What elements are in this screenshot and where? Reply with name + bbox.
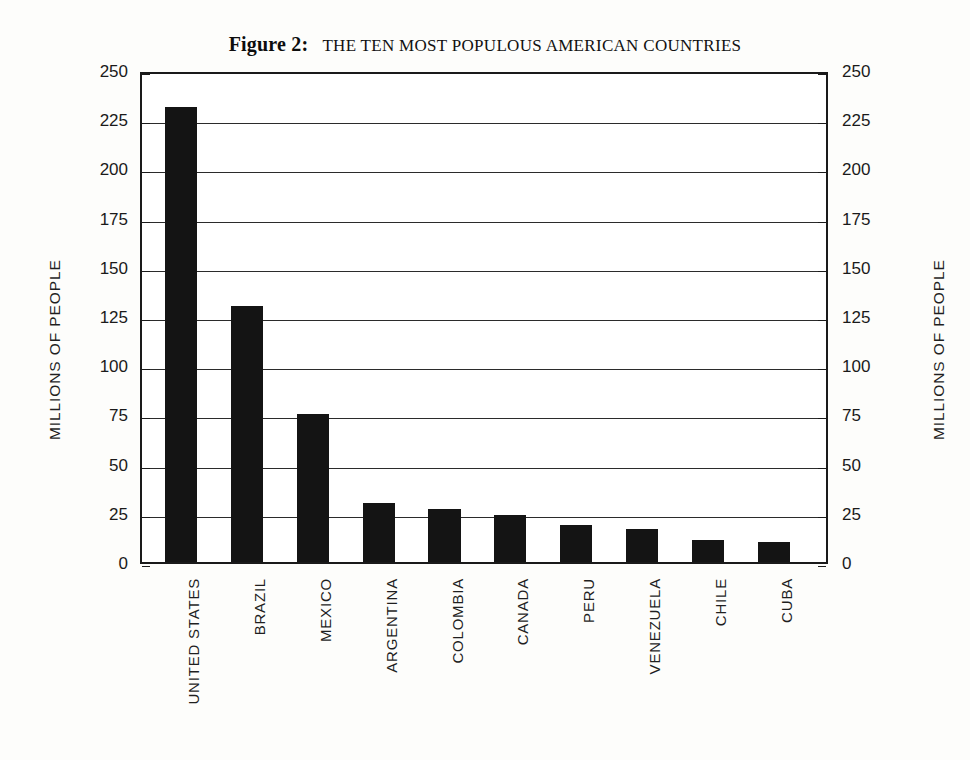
axis-tick-right	[818, 369, 826, 370]
category-label: PERU	[580, 578, 597, 623]
ytick-label-left: 0	[68, 555, 128, 572]
axis-tick-left	[142, 222, 150, 223]
axis-tick-right	[818, 517, 826, 518]
plot-area	[140, 72, 828, 564]
ytick-label-left: 225	[68, 112, 128, 129]
axis-tick-left	[142, 418, 150, 419]
category-label: BRAZIL	[251, 578, 268, 635]
ytick-label-left: 100	[68, 358, 128, 375]
category-label: CANADA	[514, 578, 531, 645]
ytick-label-right: 100	[842, 358, 902, 375]
ytick-label-right: 125	[842, 309, 902, 326]
ytick-label-left: 200	[68, 161, 128, 178]
axis-tick-right	[818, 320, 826, 321]
ytick-label-right: 50	[842, 457, 902, 474]
ytick-label-right: 75	[842, 407, 902, 424]
ytick-label-left: 175	[68, 211, 128, 228]
axis-tick-right	[818, 74, 826, 75]
ytick-label-right: 225	[842, 112, 902, 129]
left-axis-title: MILLIONS OF PEOPLE	[46, 259, 64, 440]
ytick-label-left: 150	[68, 260, 128, 277]
axis-tick-right	[818, 222, 826, 223]
axis-tick-right	[818, 123, 826, 124]
right-axis-title: MILLIONS OF PEOPLE	[930, 259, 948, 440]
ytick-label-right: 25	[842, 506, 902, 523]
figure-container: Figure 2:THE TEN MOST POPULOUS AMERICAN …	[0, 0, 970, 760]
axis-tick-right	[818, 271, 826, 272]
category-label: MEXICO	[317, 578, 334, 642]
ytick-label-left: 50	[68, 457, 128, 474]
axis-tick-right	[818, 468, 826, 469]
category-label: ARGENTINA	[383, 578, 400, 673]
ytick-label-right: 175	[842, 211, 902, 228]
ytick-label-right: 250	[842, 63, 902, 80]
category-label: CUBA	[778, 578, 795, 623]
category-label: UNITED STATES	[185, 578, 202, 705]
axis-tick-left	[142, 271, 150, 272]
axis-tick-left	[142, 123, 150, 124]
category-label: COLOMBIA	[449, 578, 466, 664]
axis-tick-left	[142, 172, 150, 173]
axis-tick-right	[818, 172, 826, 173]
axis-tick-right	[818, 566, 826, 567]
axis-tick-left	[142, 566, 150, 567]
axis-tick-left	[142, 517, 150, 518]
chart-title: Figure 2:THE TEN MOST POPULOUS AMERICAN …	[0, 33, 970, 56]
axis-tick-left	[142, 320, 150, 321]
axis-tick-right	[818, 418, 826, 419]
axis-tick-left	[142, 74, 150, 75]
ytick-label-left: 75	[68, 407, 128, 424]
axis-tick-left	[142, 369, 150, 370]
ytick-label-right: 200	[842, 161, 902, 178]
ticks-layer	[142, 74, 826, 562]
figure-number-label: Figure 2:	[229, 33, 309, 55]
ytick-label-right: 150	[842, 260, 902, 277]
ytick-label-left: 250	[68, 63, 128, 80]
category-label: CHILE	[712, 578, 729, 626]
figure-title-text: THE TEN MOST POPULOUS AMERICAN COUNTRIES	[322, 36, 741, 55]
ytick-label-left: 25	[68, 506, 128, 523]
ytick-label-left: 125	[68, 309, 128, 326]
ytick-label-right: 0	[842, 555, 902, 572]
category-label: VENEZUELA	[646, 578, 663, 674]
axis-tick-left	[142, 468, 150, 469]
